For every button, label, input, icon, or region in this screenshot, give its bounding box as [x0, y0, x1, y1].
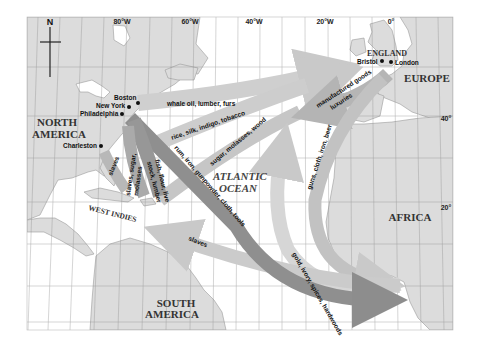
region-label-europe: EUROPE [404, 72, 450, 84]
city-label-charleston: Charleston [63, 142, 97, 149]
latitude-label-40: 40° [441, 115, 452, 122]
city-dot-philadelphia [120, 112, 124, 116]
compass-north-label: N [47, 17, 54, 27]
city-label-boston: Boston [114, 94, 136, 101]
longitude-label-0: 0° [388, 18, 395, 25]
ocean-label-1: ATLANTIC [212, 170, 267, 182]
city-label-london: London [395, 59, 419, 66]
label-whale-oil: whale oil, lumber, furs [166, 100, 236, 108]
region-label-south-america-2: AMERICA [145, 308, 199, 320]
city-dot-bristol [380, 59, 384, 63]
triangular-trade-map: N 80°W 60°W 40°W 20°W 0° 40° 20° NORTH A… [0, 0, 481, 348]
longitude-label-80w: 80°W [113, 18, 131, 25]
region-label-north-america-1: NORTH [37, 116, 77, 128]
longitude-label-40w: 40°W [245, 18, 263, 25]
region-label-england: ENGLAND [367, 49, 407, 58]
latitude-label-20: 20° [441, 204, 452, 211]
city-dot-new-york [127, 105, 131, 109]
city-label-philadelphia: Philadelphia [80, 110, 119, 118]
longitude-label-60w: 60°W [181, 18, 199, 25]
longitude-label-20w: 20°W [316, 18, 334, 25]
region-label-africa: AFRICA [389, 211, 432, 223]
city-dot-london [389, 60, 393, 64]
ocean-label-2: OCEAN [219, 182, 258, 194]
city-dot-boston [136, 101, 140, 105]
region-label-north-america-2: AMERICA [32, 128, 86, 140]
city-dot-charleston [99, 144, 103, 148]
city-label-bristol: Bristol [357, 58, 378, 65]
city-label-new-york: New York [96, 102, 125, 109]
